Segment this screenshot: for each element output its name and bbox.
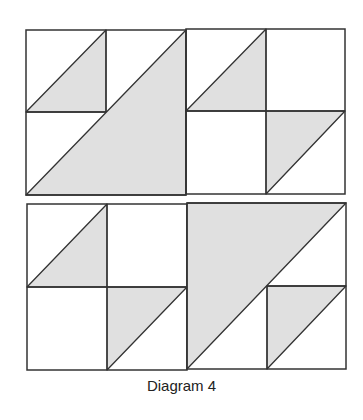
quilt-diagram — [0, 0, 363, 420]
shaded-triangle — [186, 29, 266, 111]
bottom-left-block — [27, 204, 187, 370]
shaded-triangle — [26, 30, 106, 112]
shaded-triangle — [266, 111, 345, 194]
shaded-triangle — [27, 204, 107, 287]
shaded-triangle — [267, 286, 346, 369]
bottom-right-block — [187, 203, 346, 369]
shaded-triangle — [107, 287, 187, 370]
top-right-block — [186, 29, 345, 194]
diagram-caption: Diagram 4 — [0, 377, 363, 394]
top-left-block — [26, 30, 186, 195]
